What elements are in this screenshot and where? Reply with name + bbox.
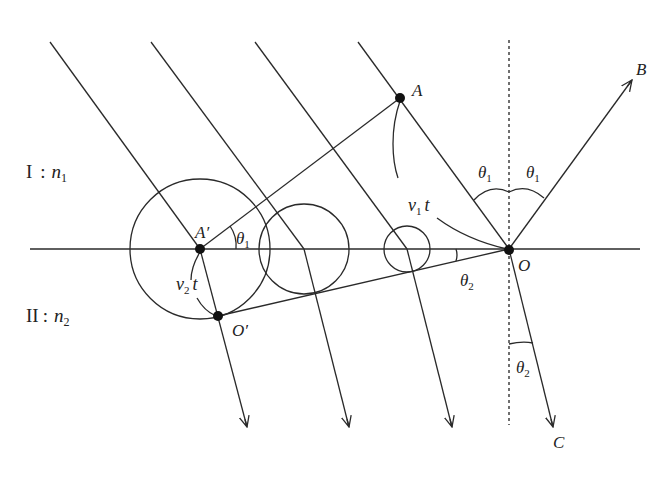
incident-ray-1 [50,42,200,249]
label-C: C [553,433,565,452]
incident-ray-4 [358,42,509,249]
incident-ray-3 [255,42,407,249]
label-theta1-wavefront: θ1 [236,229,250,250]
label-v2t: v2t [176,274,199,296]
v1t-arc-lower [437,218,507,249]
refracted-ray-OC [509,249,553,427]
theta1-arc-incident [474,189,509,200]
refracted-ray-2 [304,249,349,427]
label-O-prime: O′ [232,321,248,340]
v1t-arc [393,101,400,178]
theta1-arc-reflected [509,189,544,198]
label-theta2-wavefront: θ2 [460,271,474,292]
label-A-prime: A′ [194,223,209,242]
theta2-arc-refracted [509,342,533,344]
label-O: O [518,256,530,275]
point-A-prime [195,244,205,254]
label-v1t: v1t [408,195,431,217]
medium-I-label: I:n1 [26,161,67,185]
point-A [395,93,405,103]
huygens-refraction-diagram: A A′ O O′ B C I:n1 II:n2 v1t v2t θ1 θ1 θ… [0,0,672,479]
label-theta2-refracted: θ2 [516,358,530,379]
label-theta1-incident: θ1 [478,163,492,184]
label-A: A [411,81,423,100]
incident-ray-2 [151,42,304,249]
point-O-prime [213,311,223,321]
label-B: B [636,60,647,79]
medium-II-label: II:n2 [26,305,69,329]
theta2-arc-wavefront [456,249,457,261]
label-theta1-reflected: θ1 [526,163,540,184]
point-O [504,245,514,255]
refracted-ray-3 [407,249,452,427]
